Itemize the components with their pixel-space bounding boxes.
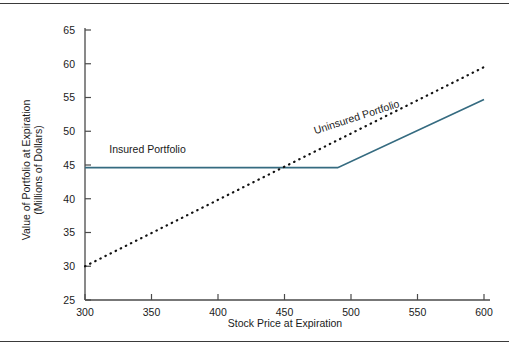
y-tick-label: 65	[63, 24, 75, 36]
x-tick-label: 400	[209, 306, 227, 318]
chart-plot: 253035404550556065 300350400450500550600…	[0, 0, 509, 351]
series-annotation-insured-portfolio: Insured Portfolio	[109, 143, 186, 155]
x-tick-label: 550	[409, 306, 427, 318]
y-axis-title-line1: Value of Portfolio at Expiration	[20, 100, 32, 241]
y-axis-title: Value of Portfolio at Expiration (Millio…	[20, 100, 44, 241]
x-tick-label: 600	[475, 306, 493, 318]
series-line-insured-portfolio	[85, 100, 484, 168]
figure-container: 253035404550556065 300350400450500550600…	[0, 0, 509, 351]
axis-lines	[85, 28, 490, 300]
x-axis-ticks: 300350400450500550600	[76, 294, 493, 318]
series-label-text: Uninsured Portfolio	[312, 97, 401, 136]
x-axis-title: Stock Price at Expiration	[228, 317, 343, 329]
y-tick-label: 30	[63, 260, 75, 272]
y-tick-label: 55	[63, 91, 75, 103]
series-label-text: Insured Portfolio	[109, 143, 186, 155]
x-tick-label: 500	[342, 306, 360, 318]
x-tick-label: 350	[143, 306, 161, 318]
series-annotation-uninsured-portfolio: Uninsured Portfolio	[312, 97, 401, 136]
y-tick-label: 40	[63, 193, 75, 205]
y-tick-label: 45	[63, 159, 75, 171]
x-tick-label: 300	[76, 306, 94, 318]
y-tick-label: 35	[63, 226, 75, 238]
data-series-layer: Insured PortfolioUninsured Portfolio	[85, 67, 484, 266]
y-tick-label: 50	[63, 125, 75, 137]
y-tick-label: 25	[63, 294, 75, 306]
y-axis-ticks: 253035404550556065	[63, 24, 91, 306]
series-line-uninsured-portfolio	[85, 67, 484, 266]
y-tick-label: 60	[63, 58, 75, 70]
y-axis-title-line2: (Millions of Dollars)	[32, 125, 44, 214]
